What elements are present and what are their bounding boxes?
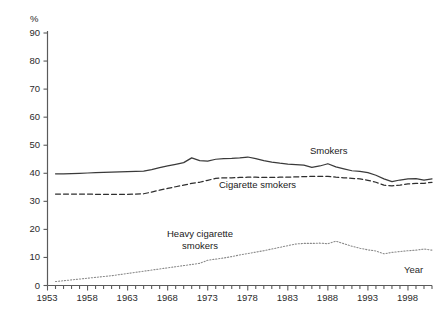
x-axis-tick-label: 1993 (357, 293, 378, 303)
smokers-series-label: Smokers (310, 146, 347, 157)
x-axis-tick-label: 1978 (237, 293, 258, 303)
y-axis-tick-label: 80 (18, 56, 40, 66)
y-axis-tick-label: 70 (18, 84, 40, 94)
x-axis-tick-label: 1958 (77, 293, 98, 303)
cigarette-smokers-series-label: Cigarette smokers (219, 180, 296, 191)
x-axis-tick-label: 1973 (197, 293, 218, 303)
x-axis-tick-label: 1998 (397, 293, 418, 303)
y-axis-tick-label: 10 (18, 252, 40, 262)
y-axis-tick-label: 60 (18, 112, 40, 122)
y-axis-tick-label: 90 (18, 28, 40, 38)
x-axis-tick-label: 1988 (317, 293, 338, 303)
year-axis-label: Year (404, 265, 423, 275)
smoking-prevalence-line-chart: % 9080706050403020100 195319581963196819… (0, 0, 440, 315)
x-axis-ticks (48, 286, 433, 291)
plot-area (0, 0, 440, 315)
data-series-group (56, 157, 432, 282)
x-axis-tick-label: 1983 (277, 293, 298, 303)
y-axis-tick-label: 50 (18, 140, 40, 150)
y-axis-tick-label: 40 (18, 168, 40, 178)
series-line-smokers (56, 157, 432, 182)
y-axis-tick-label: 20 (18, 224, 40, 234)
percent-unit-label: % (30, 14, 38, 24)
heavy-cigarette-smokers-series-label-line2: smokers (150, 241, 250, 252)
x-axis-tick-label: 1953 (37, 293, 58, 303)
y-axis-tick-label: 30 (18, 196, 40, 206)
y-axis-tick-label: 0 (18, 281, 40, 291)
x-axis-tick-label: 1968 (157, 293, 178, 303)
heavy-cigarette-smokers-series-label-line1: Heavy cigarette (150, 229, 250, 240)
x-axis-tick-label: 1963 (117, 293, 138, 303)
